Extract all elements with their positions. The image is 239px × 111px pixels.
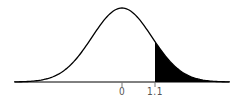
shaded-right-tail (155, 42, 230, 82)
tick-label-0: 0 (119, 86, 125, 97)
normal-curve (14, 8, 230, 82)
tick-label-1: 1.1 (147, 86, 163, 97)
